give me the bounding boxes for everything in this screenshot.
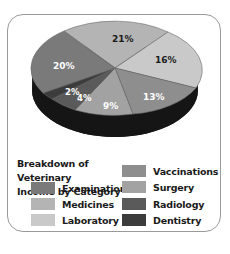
legend-item-laboratory: Laboratory [31,213,119,227]
legend-label: Radiology [153,199,204,210]
label-21: 21% [112,34,134,44]
label-9: 9% [103,101,118,111]
legend-swatch [122,198,146,210]
legend-swatch [122,165,146,177]
legend-item-surgery: Surgery [122,180,194,194]
label-2: 2% [65,87,80,97]
label-20: 20% [53,61,75,71]
legend-label: Laboratory [62,215,119,226]
label-16: 16% [155,55,177,65]
legend-item-radiology: Radiology [122,197,204,211]
legend-swatch [31,198,55,210]
legend-label: Vaccinations [153,166,218,177]
pie-chart: 21% 16% 13% 9% 4% 2% 20% [0,0,230,160]
legend-item-vaccinations: Vaccinations [122,164,218,178]
legend-swatch [31,214,55,226]
legend-item-medicines: Medicines [31,197,114,211]
legend-item-examinations: Examinations [31,181,132,195]
legend-swatch [31,182,55,194]
legend-label: Medicines [62,199,114,210]
legend-label: Surgery [153,182,194,193]
legend-swatch [122,214,146,226]
pie-svg: 21% 16% 13% 9% 4% 2% 20% [0,0,230,160]
label-13: 13% [143,92,165,102]
legend-item-dentistry: Dentistry [122,213,201,227]
legend-swatch [122,181,146,193]
legend-label: Dentistry [153,215,201,226]
